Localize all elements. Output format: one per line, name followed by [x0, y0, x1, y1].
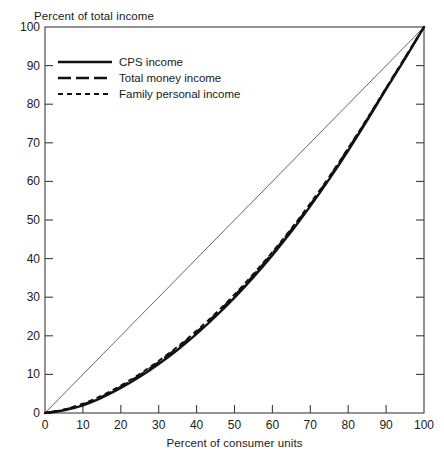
- y-tick-label: 90: [27, 59, 41, 73]
- legend-label-cps-income: CPS income: [119, 56, 183, 68]
- x-tick-label: 70: [304, 418, 318, 432]
- legend-label-total-money-income: Total money income: [119, 72, 221, 84]
- x-tick-label: 40: [190, 418, 204, 432]
- x-tick-label: 20: [114, 418, 128, 432]
- x-axis-tick-labels: 0 10 20 30 40 50 60 70 80 90 100: [42, 418, 435, 432]
- y-axis-title: Percent of total income: [34, 10, 154, 22]
- y-tick-label: 10: [27, 367, 41, 381]
- x-tick-label: 10: [76, 418, 90, 432]
- x-tick-label: 90: [379, 418, 393, 432]
- x-tick-label: 60: [266, 418, 280, 432]
- y-tick-label: 30: [27, 290, 41, 304]
- x-axis-ticks: [83, 405, 386, 413]
- chart-legend: CPS income Total money income Family per…: [58, 56, 240, 100]
- legend-label-family-personal-income: Family personal income: [119, 88, 240, 100]
- y-tick-label: 60: [27, 174, 41, 188]
- x-axis-title: Percent of consumer units: [166, 437, 302, 449]
- x-tick-label: 80: [342, 418, 356, 432]
- equality-reference-line: [45, 27, 424, 413]
- y-tick-label: 100: [20, 20, 40, 34]
- y-tick-label: 20: [27, 329, 41, 343]
- y-tick-label: 0: [33, 406, 40, 420]
- y-tick-label: 40: [27, 252, 41, 266]
- right-axis-ticks: [416, 66, 424, 375]
- x-tick-label: 100: [414, 418, 434, 432]
- lorenz-curve-chart: Percent of total income 0 10 20 30 40 50…: [0, 0, 444, 457]
- x-tick-label: 30: [152, 418, 166, 432]
- x-tick-label: 0: [42, 418, 49, 432]
- y-tick-label: 80: [27, 97, 41, 111]
- x-tick-label: 50: [228, 418, 242, 432]
- y-tick-label: 50: [27, 213, 41, 227]
- y-tick-label: 70: [27, 136, 41, 150]
- y-axis-tick-labels: 0 10 20 30 40 50 60 70 80 90 100: [20, 20, 40, 420]
- y-axis-ticks: [45, 66, 53, 413]
